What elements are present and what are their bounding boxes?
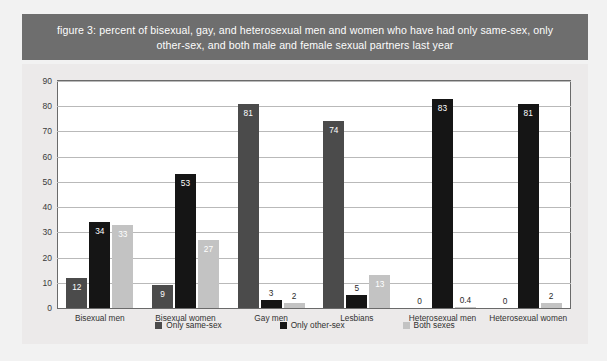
plot-wrapper: 0102030405060708090 12343395327813274513… [57,80,571,309]
figure-title-banner: figure 3: percent of bisexual, gay, and … [22,14,588,60]
legend-item[interactable]: Only same-sex [155,320,221,330]
bar: 33 [112,225,133,308]
bar-group: 74513 [314,81,400,308]
bar-group: 0812 [485,81,571,308]
chart-legend: Only same-sexOnly other-sexBoth sexes [22,320,588,330]
legend-item[interactable]: Both sexes [403,320,455,330]
bar: 3 [261,300,282,308]
y-axis-tick-label: 30 [43,227,52,237]
y-axis-tick-label: 10 [43,278,52,288]
bar-group: 95327 [143,81,229,308]
bar-value-label: 2 [531,291,571,301]
chart-frame: 0102030405060708090 12343395327813274513… [22,64,588,344]
legend-swatch-icon [403,322,410,329]
bar: 2 [284,303,305,308]
legend-swatch-icon [280,322,287,329]
y-axis-tick-label: 0 [47,303,52,313]
legend-label: Both sexes [414,320,455,330]
legend-item[interactable]: Only other-sex [280,320,345,330]
bar-value-label: 81 [228,108,268,118]
bar-value-label: 13 [360,279,400,289]
y-axis-tick-label: 50 [43,177,52,187]
legend-swatch-icon [155,322,162,329]
bar-value-label: 83 [422,103,462,113]
y-axis-tick-label: 90 [43,76,52,86]
bar: 9 [152,285,173,308]
bar: 74 [323,121,344,308]
bar-value-label: 74 [314,125,354,135]
y-axis-tick-label: 70 [43,126,52,136]
bar-value-label: 53 [165,178,205,188]
legend-label: Only same-sex [166,320,221,330]
bar: 81 [238,104,259,308]
bar-group: 8132 [228,81,314,308]
bar: 2 [541,303,562,308]
page-title: figure 3: percent of bisexual, gay, and … [52,23,558,54]
figure-page: figure 3: percent of bisexual, gay, and … [0,0,607,361]
bar-value-label: 0.4 [445,295,485,305]
bar-value-label: 33 [103,229,143,239]
bar: 0.4 [455,307,476,308]
legend-label: Only other-sex [291,320,345,330]
bar: 12 [66,278,87,308]
bar: 81 [518,104,539,308]
bar: 13 [369,275,390,308]
y-axis-tick-label: 20 [43,253,52,263]
bar-group: 0830.4 [400,81,486,308]
bar: 53 [175,174,196,308]
bar-group: 123433 [57,81,143,308]
bar: 83 [432,99,453,308]
bar-value-label: 27 [188,244,228,254]
y-axis-tick-label: 40 [43,202,52,212]
bar-value-label: 2 [274,291,314,301]
y-axis-tick-label: 60 [43,152,52,162]
bar: 27 [198,240,219,308]
bar-value-label: 81 [508,108,548,118]
bar: 5 [346,295,367,308]
y-axis-tick-label: 80 [43,101,52,111]
